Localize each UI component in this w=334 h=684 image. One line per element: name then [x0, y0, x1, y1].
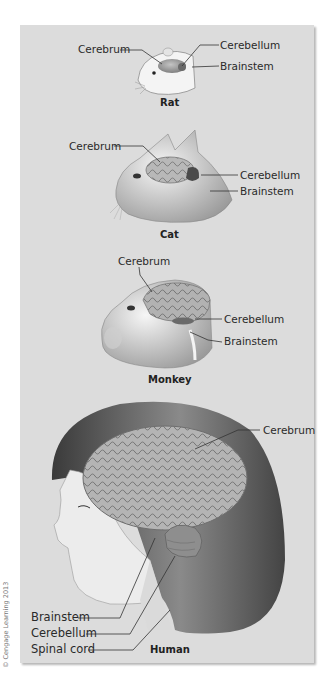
- human-spinal-cord-label: Spinal cord: [31, 644, 95, 656]
- rat-cerebrum-label: Cerebrum: [78, 44, 130, 55]
- monkey-cerebrum-label: Cerebrum: [118, 256, 170, 267]
- cat-cerebellum-label: Cerebellum: [240, 170, 300, 181]
- rat-brainstem-label: Brainstem: [220, 61, 274, 72]
- human-illustration: [52, 402, 285, 634]
- cat-illustration: [110, 130, 232, 222]
- human-brainstem-label: Brainstem: [31, 612, 90, 624]
- cat-brainstem-label: Brainstem: [240, 186, 294, 197]
- copyright-credit: © Cengage Learning 2013: [2, 582, 10, 668]
- human-caption: Human: [150, 645, 190, 655]
- cat-caption: Cat: [160, 230, 179, 240]
- rat-cerebellum-label: Cerebellum: [220, 40, 280, 51]
- monkey-caption: Monkey: [148, 375, 192, 385]
- rat-caption: Rat: [160, 98, 179, 108]
- human-cerebrum-label: Cerebrum: [263, 425, 315, 436]
- cat-cerebrum-label: Cerebrum: [69, 141, 121, 152]
- monkey-brainstem-label: Brainstem: [224, 336, 278, 347]
- monkey-cerebellum-label: Cerebellum: [224, 314, 284, 325]
- human-cerebellum-label: Cerebellum: [31, 628, 97, 640]
- rat-illustration: [135, 48, 195, 94]
- monkey-illustration: [101, 280, 212, 368]
